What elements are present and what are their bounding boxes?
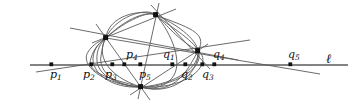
label-q4: q4 [213,49,225,60]
label-p2: p2 [83,69,95,80]
label-p5: p5 [139,69,151,80]
point-p1 [49,62,53,66]
node-top [153,12,158,17]
geometry-figure: p1 p2 p3 p4 p5 q1 q2 q3 q4 q5 ℓ [0,0,352,106]
secant-lines [36,3,320,100]
label-line-l: ℓ [326,52,331,65]
point-q5 [288,62,292,66]
point-p2 [89,62,93,66]
point-q1 [170,62,174,66]
point-p5 [138,62,142,66]
point-p4 [122,62,126,66]
label-p1: p1 [50,69,62,80]
point-q2 [183,62,187,66]
label-q2: q2 [181,69,193,80]
label-q1: q1 [163,49,175,60]
label-p3: p3 [105,69,117,80]
node-left [103,35,108,40]
label-q5: q5 [288,49,300,60]
label-q3: q3 [202,69,214,80]
point-q3 [200,62,204,66]
point-q4 [212,62,216,66]
point-p3 [110,62,114,66]
node-bottom [138,84,143,89]
label-p4: p4 [126,49,138,60]
secant-top-right [151,5,210,69]
node-right [195,48,200,53]
